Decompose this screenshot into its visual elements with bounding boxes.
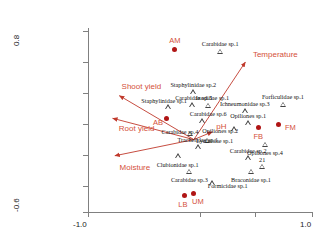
species-marker	[205, 103, 211, 108]
species-label: Staphylinidae sp.2	[170, 80, 216, 87]
species-label: Carabidae sp.3	[171, 176, 208, 183]
site-label: UM	[192, 197, 204, 206]
species-marker	[186, 169, 192, 174]
site-marker	[256, 125, 261, 130]
species-marker	[189, 102, 195, 107]
site-marker	[276, 122, 281, 127]
species-marker	[165, 104, 171, 109]
species-marker	[248, 169, 254, 174]
species-label: Carabidae sp.1	[202, 40, 239, 47]
site-label: FM	[285, 123, 296, 132]
species-marker	[217, 49, 223, 54]
species-label: Trachelidae sp.1	[177, 135, 218, 142]
species-marker	[245, 120, 251, 125]
species-label: Formicidae sp.1	[208, 181, 248, 188]
species-label: 21	[259, 156, 265, 163]
species-label: Ichneumonidae sp.3	[220, 99, 270, 106]
species-label: Carabidae sp.4	[162, 128, 199, 135]
species-label: Carabidae sp.2	[230, 146, 267, 153]
species-label: Opiliones sp.1	[230, 111, 266, 118]
species-marker	[245, 155, 251, 160]
species-marker	[280, 102, 286, 107]
site-label: AM	[169, 36, 180, 45]
site-marker	[172, 47, 177, 52]
site-label: LB	[178, 200, 187, 209]
species-marker	[175, 153, 181, 158]
species-label: Forficulidae sp.1	[262, 93, 304, 100]
site-label: FB	[253, 132, 263, 141]
species-label: Clubionidae sp.1	[157, 160, 199, 167]
env-label: Moisture	[120, 162, 151, 171]
env-label: Root yield	[119, 124, 155, 133]
env-label: Shoot yield	[122, 81, 162, 90]
species-marker	[259, 164, 265, 169]
site-label: AB	[153, 117, 163, 126]
env-label: pH	[216, 121, 226, 130]
env-label: Temperature	[253, 50, 298, 59]
ordination-biplot: 0.8 -0.6 -1.0 1.0 Carabidae sp.1Staphyli…	[0, 0, 325, 249]
species-label: Carabidae sp.6	[190, 109, 227, 116]
species-marker	[199, 118, 205, 123]
species-marker	[195, 144, 201, 149]
